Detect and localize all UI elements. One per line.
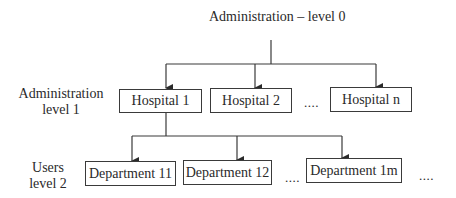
- level-2-name: Users: [18, 160, 78, 176]
- trailing-ellipsis: ....: [419, 168, 434, 184]
- hospital-1-node: Hospital 1: [119, 89, 202, 113]
- level-1-label: Administration level 1: [14, 86, 108, 118]
- hierarchy-diagram: Administration – level 0 Administration …: [0, 0, 456, 198]
- department-11-node: Department 11: [85, 161, 176, 186]
- level-1-name: Administration: [14, 86, 108, 102]
- hospital-2-node: Hospital 2: [210, 88, 292, 113]
- hospital-ellipsis: ....: [304, 95, 319, 111]
- department-1m-node: Department 1m: [306, 158, 402, 183]
- level-1-sub: level 1: [14, 102, 108, 118]
- hospital-n-node: Hospital n: [330, 87, 412, 112]
- department-ellipsis: ....: [285, 170, 300, 186]
- root-title: Administration – level 0: [209, 9, 345, 25]
- level-2-label: Users level 2: [18, 160, 78, 192]
- level-2-sub: level 2: [18, 176, 78, 192]
- department-12-node: Department 12: [183, 160, 272, 185]
